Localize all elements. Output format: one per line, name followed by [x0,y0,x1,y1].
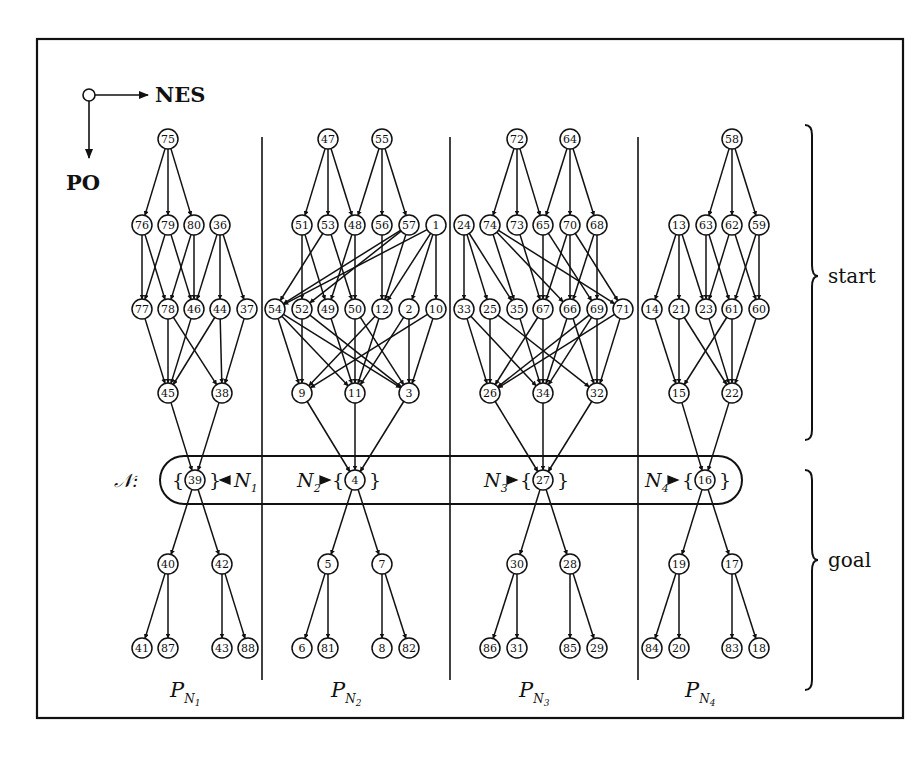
node-label: 52 [295,303,309,316]
graph-node: 73 [507,215,527,235]
partition-label-2: PN2 [330,678,362,708]
graph-node: 39 [185,470,205,490]
edge [223,235,244,300]
edge [655,235,676,300]
node-label: 81 [321,642,335,655]
edge [309,316,375,386]
goal-n4-label: N4 [644,469,669,495]
edge [225,574,245,639]
node-label: 14 [645,303,659,316]
node-label: 38 [215,387,229,400]
edge [735,149,756,216]
node-label: 10 [429,303,443,316]
graph-node: 31 [507,638,527,658]
graph-node: 29 [587,638,607,658]
graph-node: 51 [292,215,312,235]
edge [145,319,165,384]
edge [220,319,222,383]
edge [546,149,567,216]
graph-node: 35 [507,299,527,319]
node-label: 57 [402,219,416,232]
graph-node: 38 [212,383,232,403]
node-label: 79 [161,219,175,232]
node-label: 67 [536,303,550,316]
node-label: 20 [672,642,686,655]
graph-node: 18 [749,638,769,658]
graph-node: 43 [212,638,232,658]
node-label: 5 [325,558,332,571]
graph-node: 52 [292,299,312,319]
node-label: 50 [348,303,362,316]
node-label: 18 [752,642,766,655]
node-label: 47 [321,133,335,146]
right-pointer-icon [507,476,517,484]
node-label: 54 [268,303,282,316]
right-pointer-icon [668,476,678,484]
node-label: 19 [672,558,686,571]
graph-node: 80 [184,215,204,235]
node-label: 31 [510,642,524,655]
graph-node: 48 [345,215,365,235]
edge [708,490,729,555]
edge [600,319,620,384]
graph-node: 42 [212,554,232,574]
edge [682,235,703,300]
graph-node: 37 [237,299,257,319]
graph-node: 24 [454,215,474,235]
graph-node: 46 [184,299,204,319]
node-label: 39 [188,474,202,487]
graph-node: 75 [158,129,178,149]
node-label: 12 [375,303,389,316]
edge [198,403,219,471]
graph-node: 36 [210,215,230,235]
edge [655,574,676,639]
edge [735,319,756,384]
node-label: 4 [352,474,359,487]
partition-label-4: PN4 [684,678,716,708]
edge [145,149,165,216]
graph-node: 84 [642,638,662,658]
graph-node: 50 [345,299,365,319]
edge [467,319,487,384]
node-label: 41 [135,642,149,655]
edge [708,403,729,471]
node-label: 80 [187,219,201,232]
edge [735,574,756,639]
graph-node: 32 [587,383,607,403]
graph-node: 83 [722,638,742,658]
edge [331,490,352,555]
node-label: 63 [699,219,713,232]
node-label: 69 [590,303,604,316]
node-label: 13 [672,219,686,232]
edge [548,317,591,384]
graph-node: 9 [292,383,312,403]
node-label: 77 [135,303,149,316]
graph-node: 61 [722,299,742,319]
graph-node: 28 [560,554,580,574]
node-label: 3 [406,387,413,400]
edge [305,574,325,639]
graph-node: 49 [318,299,338,319]
graph-node: 76 [132,215,152,235]
edge [385,149,406,216]
graph-node: 2 [399,299,419,319]
graph-node: 60 [749,299,769,319]
node-label: 71 [616,303,630,316]
graph-node: 59 [749,215,769,235]
graph-node: 86 [480,638,500,658]
node-label: 30 [510,558,524,571]
edge [573,235,594,300]
edge [682,403,702,471]
edge [573,149,594,216]
edge [385,574,406,639]
graph-node: 57 [399,215,419,235]
goal-n3-label: N3 [483,469,508,495]
edge [493,235,514,300]
edge [171,403,192,471]
graph-node: 27 [533,470,553,490]
node-label: 15 [672,387,686,400]
node-label: 11 [348,387,362,400]
edge [495,402,538,472]
graph-node: 12 [372,299,392,319]
node-label: 61 [725,303,739,316]
